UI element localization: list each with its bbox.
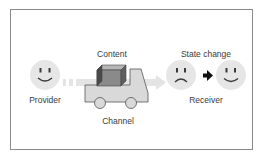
channel-label: Channel: [102, 116, 134, 126]
content-label: Content: [97, 49, 127, 59]
provider-happy-face-icon: [30, 60, 60, 90]
diagram-canvas: [0, 0, 261, 157]
state-change-label: State change: [181, 49, 231, 59]
receiver-happy-face-icon: [216, 60, 246, 90]
receiver-sad-face-icon: [166, 60, 196, 90]
receiver-label: Receiver: [189, 95, 223, 105]
provider-label: Provider: [29, 95, 61, 105]
state-change-arrow-icon: [203, 70, 213, 81]
content-box-icon: [97, 65, 126, 86]
